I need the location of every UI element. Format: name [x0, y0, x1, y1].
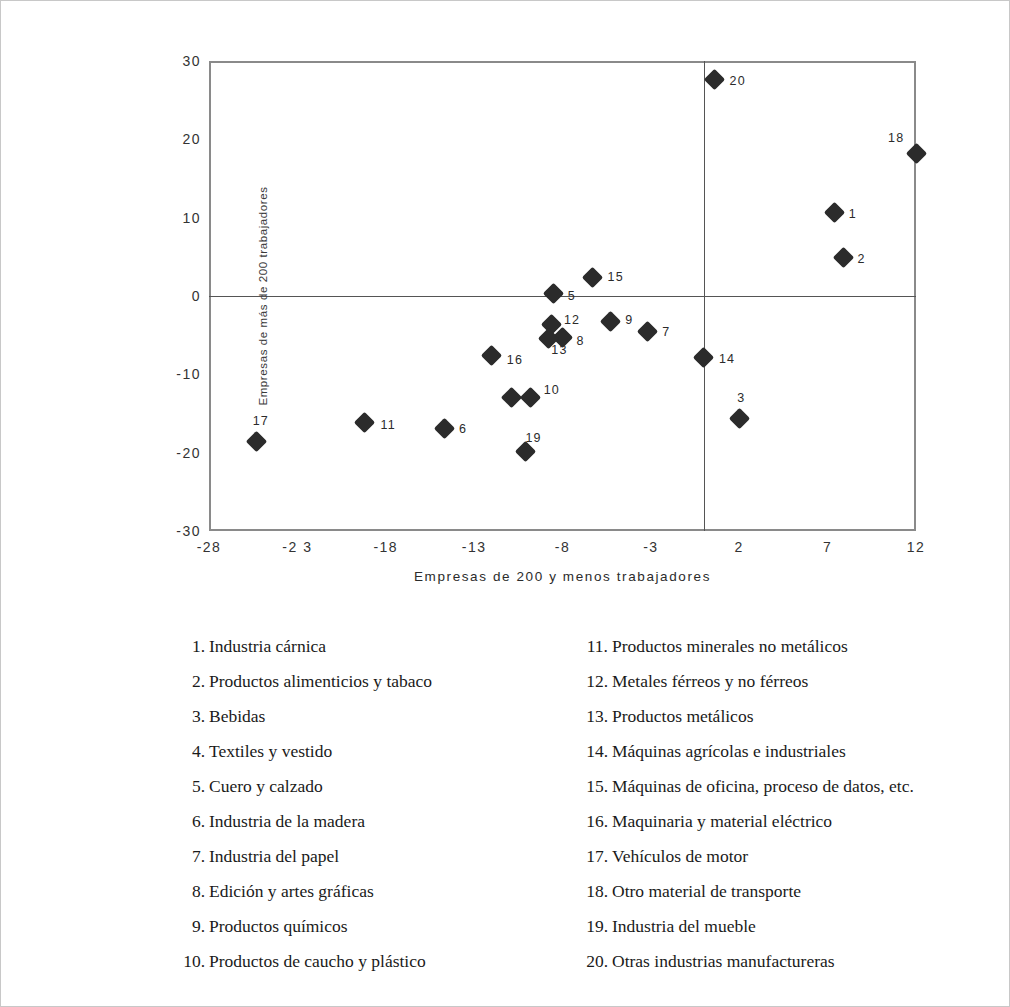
legend-item: 16.Maquinaria y material eléctrico [574, 804, 939, 839]
legend-item: 20.Otras industrias manufactureras [574, 944, 939, 979]
legend-item: 3.Bebidas [179, 699, 544, 734]
legend-item-label: Industria cárnica [209, 636, 326, 656]
legend-item-number: 10. [179, 944, 205, 979]
legend-item: 14.Máquinas agrícolas e industriales [574, 734, 939, 769]
data-point-label: 17 [253, 414, 269, 428]
data-point-label: 3 [737, 391, 745, 405]
y-tick-label: 30 [161, 53, 201, 69]
legend-item-number: 7. [179, 839, 205, 874]
x-tick-label: -13 [444, 539, 504, 555]
x-tick-label: -18 [356, 539, 416, 555]
legend-item-number: 2. [179, 664, 205, 699]
data-point-label: 7 [662, 325, 670, 339]
legend-item-number: 19. [582, 909, 608, 944]
data-point-label: 8 [577, 334, 585, 348]
legend-item-number: 3. [179, 699, 205, 734]
legend-item: 8.Edición y artes gráficas [179, 874, 544, 909]
y-tick-label: 10 [161, 210, 201, 226]
data-point-label: 5 [568, 289, 576, 303]
data-point-label: 2 [858, 252, 866, 266]
legend-item-label: Vehículos de motor [612, 846, 748, 866]
legend-item-number: 5. [179, 769, 205, 804]
legend-item-label: Productos metálicos [612, 706, 753, 726]
legend-item-label: Textiles y vestido [209, 741, 332, 761]
legend-item-number: 15. [582, 769, 608, 804]
legend-item-label: Productos minerales no metálicos [612, 636, 848, 656]
legend-item-number: 6. [179, 804, 205, 839]
legend-item-number: 1. [179, 629, 205, 664]
y-axis-title: Empresas de más de 200 trabajadores [257, 186, 269, 405]
legend-item: 15.Máquinas de oficina, proceso de datos… [574, 769, 939, 804]
data-point-label: 20 [730, 74, 746, 88]
y-tick-label: -10 [161, 366, 201, 382]
legend-item-number: 13. [582, 699, 608, 734]
legend-item-label: Metales férreos y no férreos [612, 671, 808, 691]
legend-item-label: Edición y artes gráficas [209, 881, 374, 901]
x-axis-title: Empresas de 200 y menos trabajadores [209, 569, 916, 584]
legend-item: 19.Industria del mueble [574, 909, 939, 944]
x-tick-label: -8 [533, 539, 593, 555]
legend-item-number: 17. [582, 839, 608, 874]
legend-item-label: Otras industrias manufactureras [612, 951, 835, 971]
data-point-label: 1 [849, 207, 857, 221]
data-point-label: 12 [564, 313, 580, 327]
x-tick-label: 7 [798, 539, 858, 555]
x-tick-label: -3 [621, 539, 681, 555]
legend-item: 18.Otro material de transporte [574, 874, 939, 909]
data-point-label: 16 [507, 353, 523, 367]
legend-item-number: 12. [582, 664, 608, 699]
legend-item-number: 8. [179, 874, 205, 909]
legend-item-label: Industria del papel [209, 846, 339, 866]
scatter-chart: 123567891011121314151617181920 Empresas … [209, 61, 916, 531]
data-point-label: 14 [719, 352, 735, 366]
legend-item-number: 18. [582, 874, 608, 909]
y-axis-ticks: 3020100-10-20-30 [155, 61, 201, 531]
x-tick-label: -2 3 [267, 539, 327, 555]
legend-item: 6.Industria de la madera [179, 804, 544, 839]
legend-item: 9.Productos químicos [179, 909, 544, 944]
legend-column-left: 1.Industria cárnica2.Productos alimentic… [179, 629, 544, 979]
legend-item-label: Productos químicos [209, 916, 348, 936]
y-tick-label: -20 [161, 445, 201, 461]
y-tick-label: -30 [161, 523, 201, 539]
x-axis-ticks: -28-2 3-18-13-8-32712 [209, 539, 916, 563]
y-tick-label: 0 [161, 288, 201, 304]
page-canvas: 123567891011121314151617181920 Empresas … [0, 0, 1010, 1007]
legend-item: 13.Productos metálicos [574, 699, 939, 734]
data-point-label: 13 [551, 343, 567, 357]
legend-item-label: Maquinaria y material eléctrico [612, 811, 832, 831]
legend-item: 1.Industria cárnica [179, 629, 544, 664]
legend-item-number: 20. [582, 944, 608, 979]
data-point-label: 6 [459, 422, 467, 436]
legend-item: 10.Productos de caucho y plástico [179, 944, 544, 979]
legend-item-number: 14. [582, 734, 608, 769]
legend-item: 2.Productos alimenticios y tabaco [179, 664, 544, 699]
legend-item-number: 16. [582, 804, 608, 839]
legend-item-label: Bebidas [209, 706, 265, 726]
zero-horizontal-line [209, 296, 916, 297]
legend-item-number: 9. [179, 909, 205, 944]
legend-item: 7.Industria del papel [179, 839, 544, 874]
data-point-label: 15 [608, 270, 624, 284]
legend-item-label: Cuero y calzado [209, 776, 323, 796]
legend-item: 5.Cuero y calzado [179, 769, 544, 804]
legend-item: 11.Productos minerales no metálicos [574, 629, 939, 664]
legend-item-number: 4. [179, 734, 205, 769]
data-point-label: 11 [381, 418, 396, 432]
legend-item-label: Productos de caucho y plástico [209, 951, 426, 971]
legend-item-label: Otro material de transporte [612, 881, 801, 901]
zero-vertical-line [704, 61, 705, 531]
legend-item: 4.Textiles y vestido [179, 734, 544, 769]
legend-item: 12.Metales férreos y no férreos [574, 664, 939, 699]
legend-item-label: Industria del mueble [612, 916, 756, 936]
y-tick-label: 20 [161, 131, 201, 147]
x-tick-label: 12 [886, 539, 946, 555]
data-point-label: 9 [625, 313, 633, 327]
legend-item: 17.Vehículos de motor [574, 839, 939, 874]
legend-column-right: 11.Productos minerales no metálicos12.Me… [574, 629, 939, 979]
legend: 1.Industria cárnica2.Productos alimentic… [179, 629, 939, 979]
x-tick-label: 2 [709, 539, 769, 555]
data-point-label: 10 [544, 383, 560, 397]
legend-item-label: Máquinas de oficina, proceso de datos, e… [612, 776, 914, 796]
legend-item-label: Industria de la madera [209, 811, 365, 831]
